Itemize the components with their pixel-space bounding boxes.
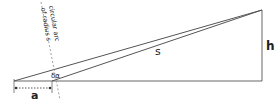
label-angle: δα	[51, 72, 60, 80]
triangle-diagram: a s h δα circular arc of radius s	[0, 0, 277, 102]
dimension-a-right-dot	[49, 87, 52, 90]
label-h: h	[266, 39, 275, 53]
label-a: a	[31, 89, 38, 102]
label-s: s	[155, 45, 161, 58]
dimension-a-left-dot	[15, 87, 18, 90]
